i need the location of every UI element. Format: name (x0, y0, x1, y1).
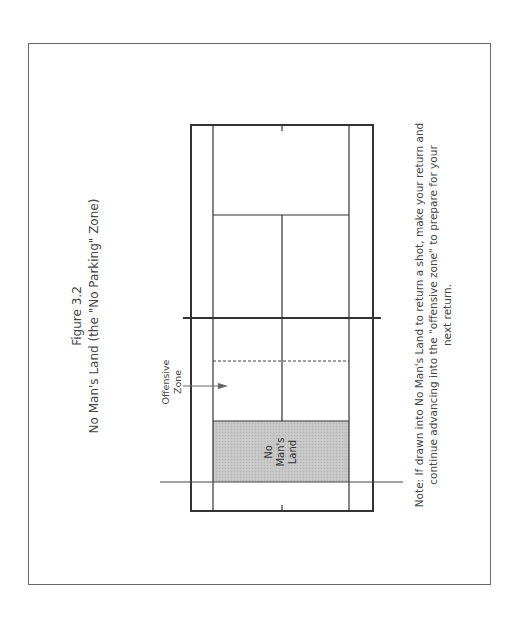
note-line1: Note: If drawn into No Man's Land to ret… (412, 123, 426, 507)
no-mans-land-label-line3: Land (287, 437, 299, 466)
figure-label: Figure 3.2 (69, 199, 86, 434)
no-mans-land-label-line2: Man's (275, 437, 287, 466)
no-mans-land-label: No Man's Land (263, 437, 299, 466)
arrowhead-icon (218, 383, 228, 389)
offensive-zone-label-line1: Offensive (160, 360, 172, 405)
offensive-zone-label-line2: Zone (172, 360, 184, 405)
figure-title: No Man's Land (the "No Parking" Zone) (86, 199, 103, 434)
offensive-zone-label: Offensive Zone (160, 360, 184, 405)
figure-title-block: Figure 3.2 No Man's Land (the "No Parkin… (69, 199, 103, 434)
figure-note: Note: If drawn into No Man's Land to ret… (412, 123, 454, 507)
note-line3: next return. (440, 123, 454, 507)
note-line2: continue advancing into the "offensive z… (426, 123, 440, 507)
no-mans-land-label-line1: No (263, 437, 275, 466)
